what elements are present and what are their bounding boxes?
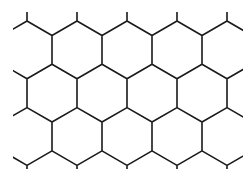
hexagon-edges xyxy=(0,0,249,180)
hexagon-grid xyxy=(0,0,249,180)
